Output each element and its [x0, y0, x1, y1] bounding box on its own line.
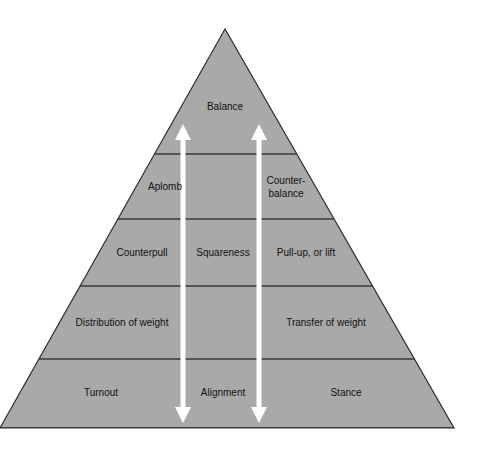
label-counterbalance: Counter- balance — [267, 174, 306, 200]
label-transfer-of-weight: Transfer of weight — [286, 316, 366, 329]
label-counterbalance-line-2: balance — [267, 187, 306, 200]
label-squareness: Squareness — [196, 246, 249, 259]
label-counterbalance-line-1: Counter- — [267, 174, 306, 187]
pyramid-shape — [0, 29, 454, 428]
label-stance: Stance — [330, 386, 361, 399]
label-alignment: Alignment — [201, 386, 245, 399]
label-turnout: Turnout — [84, 386, 118, 399]
label-aplomb: Aplomb — [148, 180, 182, 193]
label-counterpull: Counterpull — [116, 246, 167, 259]
label-pullup-or-lift: Pull-up, or lift — [277, 246, 335, 259]
pyramid-diagram: Balance Aplomb Counter- balance Counterp… — [0, 0, 482, 452]
pyramid-graphic — [0, 0, 482, 452]
label-distribution-of-weight: Distribution of weight — [76, 316, 169, 329]
label-balance: Balance — [207, 100, 243, 113]
